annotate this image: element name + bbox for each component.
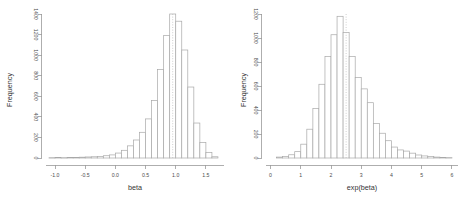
y-tick-label: 1000 [33, 49, 39, 61]
histogram-bars [49, 14, 218, 158]
histogram-bar [391, 147, 397, 158]
histogram-bar [355, 77, 361, 158]
histogram-bar [349, 57, 355, 158]
y-tick-label: 200 [33, 133, 39, 142]
histogram-bar [410, 153, 416, 158]
histogram-bar [337, 16, 343, 158]
histogram-bar [428, 157, 434, 158]
x-tick-label: 0 [269, 172, 272, 178]
histogram-bar [295, 152, 301, 158]
x-tick-label: 1.5 [202, 172, 209, 178]
x-axis-ticks: -1.0-0.50.00.51.01.5 [51, 165, 210, 178]
histogram-bar [109, 155, 115, 158]
histogram-bar [152, 100, 158, 158]
histogram-bar [289, 155, 295, 158]
histogram-bar [307, 129, 313, 158]
chart-panel-beta: Frequency 0 200 400 600 800 1000 1200 [0, 0, 234, 199]
histogram-bar [85, 157, 91, 158]
histogram-bar [164, 36, 170, 158]
x-tick-label: 0.5 [142, 172, 149, 178]
histogram-bar [79, 157, 85, 158]
y-tick-label: 1400 [33, 8, 39, 20]
histogram-bar [127, 146, 133, 158]
x-tick-label: 1 [299, 172, 302, 178]
histogram-bar [361, 89, 367, 158]
y-tick-label: 1200 [253, 8, 259, 20]
histogram-bar [158, 70, 164, 158]
y-tick-label: 1200 [33, 29, 39, 41]
histogram-bar [331, 35, 337, 158]
histogram-bar [67, 157, 73, 158]
histogram-bar [97, 156, 103, 158]
histogram-bar [194, 123, 200, 158]
x-tick-label: 3 [360, 172, 363, 178]
histogram-bar [140, 132, 146, 158]
y-axis-title: Frequency [239, 73, 248, 107]
histogram-bar [200, 143, 206, 158]
histogram-bar [146, 119, 152, 158]
y-tick-label: 1000 [253, 32, 259, 44]
y-tick-label: 0 [33, 157, 39, 160]
y-tick-label: 800 [253, 58, 259, 67]
y-tick-label: 400 [253, 106, 259, 115]
histogram-bar [373, 123, 379, 158]
y-axis-ticks: 0 200 400 600 800 1000 1200 1400 [33, 8, 42, 159]
x-tick-label: 2 [330, 172, 333, 178]
histogram-bar [212, 157, 218, 158]
y-tick-label: 800 [33, 71, 39, 80]
x-tick-label: 4 [390, 172, 393, 178]
histogram-bar [283, 156, 289, 158]
histogram-bars [277, 16, 452, 158]
histogram-bar [176, 21, 182, 158]
histogram-bar [73, 157, 79, 158]
x-tick-label: 6 [451, 172, 454, 178]
x-tick-label: -0.5 [81, 172, 90, 178]
histogram-beta-svg: Frequency 0 200 400 600 800 1000 1200 [0, 0, 234, 199]
x-axis-title: exp(beta) [347, 183, 377, 192]
x-tick-label: -1.0 [51, 172, 60, 178]
histogram-bar [115, 153, 121, 158]
x-tick-label: 1.0 [172, 172, 179, 178]
histogram-bar [133, 140, 139, 158]
histogram-bar [422, 156, 428, 158]
figure-canvas: Frequency 0 200 400 600 800 1000 1200 [0, 0, 468, 199]
chart-panel-exp-beta: Frequency 0 200 400 600 800 1000 1200 [234, 0, 468, 199]
histogram-bar [367, 103, 373, 158]
histogram-bar [404, 151, 410, 158]
x-axis-title: beta [128, 183, 142, 192]
histogram-bar [182, 50, 188, 158]
histogram-bar [416, 155, 422, 158]
histogram-bar [385, 141, 391, 158]
histogram-bar [103, 156, 109, 158]
x-axis-ticks: 0123456 [269, 165, 453, 178]
y-axis-ticks: 0 200 400 600 800 1000 1200 [253, 8, 262, 159]
histogram-bar [379, 133, 385, 158]
histogram-bar [206, 152, 212, 158]
y-tick-label: 400 [33, 113, 39, 122]
histogram-bar [325, 57, 331, 158]
y-tick-label: 600 [253, 82, 259, 91]
histogram-bar [434, 157, 440, 158]
y-axis-title: Frequency [5, 73, 14, 107]
histogram-bar [301, 144, 307, 158]
histogram-bar [313, 108, 319, 158]
histogram-bar [319, 84, 325, 158]
histogram-bar [91, 157, 97, 158]
histogram-exp-beta-svg: Frequency 0 200 400 600 800 1000 1200 [234, 0, 468, 199]
histogram-bar [440, 157, 446, 158]
histogram-bar [188, 87, 194, 158]
histogram-bar [398, 150, 404, 158]
y-tick-label: 600 [33, 92, 39, 101]
y-tick-label: 0 [253, 157, 259, 160]
histogram-bar [121, 150, 127, 158]
x-tick-label: 5 [420, 172, 423, 178]
y-tick-label: 200 [253, 130, 259, 139]
x-tick-label: 0.0 [112, 172, 119, 178]
histogram-bar [277, 157, 283, 158]
